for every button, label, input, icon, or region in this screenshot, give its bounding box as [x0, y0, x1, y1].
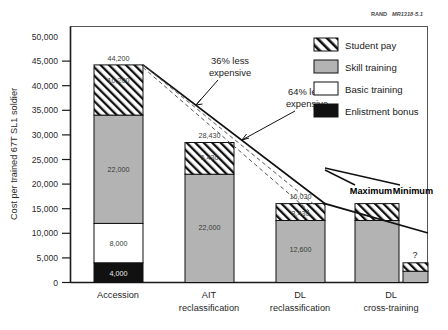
y-axis-ticks [62, 61, 71, 282]
bar-group-accession[interactable]: 44,200 10,200 22,000 8,000 4,000 [94, 54, 143, 283]
legend-swatch-skill-training [314, 60, 338, 73]
bar-segment-skill-training[interactable] [403, 271, 428, 282]
bar-segment-student-pay[interactable] [403, 263, 428, 271]
bar-segment-skill-training[interactable] [355, 221, 399, 283]
credit-line: RAND MR1318-5.1 [371, 11, 423, 17]
annotation-maximum-label: Maximum [350, 186, 392, 196]
bar-value-student-pay: 10,200 [108, 76, 130, 85]
bar-group-dl-reclassification[interactable]: 16,030 3,430 12,600 [276, 192, 325, 283]
x-label-dl-cross-line2: cross-training [363, 303, 418, 313]
legend-swatch-enlistment-bonus [314, 104, 338, 117]
y-tick-label-6: 30,000 [32, 130, 59, 140]
x-label-dl-cross-line1: DL [385, 290, 397, 300]
annotation-minimum-leader [325, 168, 400, 185]
bar-segment-student-pay[interactable] [94, 65, 143, 115]
bar-value-skill-training: 12,600 [290, 245, 312, 254]
legend-label-skill-training: Skill training [345, 62, 397, 73]
y-axis-title: Cost per trained 67T SL1 soldier [9, 88, 19, 220]
y-tick-label-4: 20,000 [32, 179, 59, 189]
y-tick-label-7: 35,000 [32, 105, 59, 115]
x-axis-labels: Accession AIT reclassification DL reclas… [97, 290, 419, 313]
x-label-ait-line1: AIT [202, 290, 217, 300]
annotation-36-line1: 36% less [211, 55, 249, 66]
bar-value-student-pay: 3,430 [292, 209, 310, 218]
y-tick-label-8: 40,000 [32, 81, 59, 91]
legend-swatch-basic-training [314, 82, 338, 95]
legend-label-enlistment-bonus: Enlistment bonus [345, 106, 419, 117]
bar-total-label-accession: 44,200 [108, 54, 130, 63]
legend-swatch-student-pay [314, 38, 338, 51]
legend-label-basic-training: Basic training [345, 84, 403, 95]
annotation-maximum: Maximum [325, 170, 392, 196]
chart-svg: RAND MR1318-5.1 0 5,000 10,000 15,000 20… [0, 0, 448, 330]
x-label-ait-line2: reclassification [179, 303, 239, 313]
x-label-dl-reclass-line2: reclassification [270, 303, 330, 313]
bar-total-label-minimum: ? [412, 250, 417, 260]
y-tick-label-1: 5,000 [36, 253, 58, 263]
annotation-64-leader [242, 111, 295, 140]
annotation-minimum-label: Minimum [393, 186, 433, 196]
bar-value-basic-training: 8,000 [110, 239, 128, 248]
x-label-dl-reclass-line1: DL [294, 290, 306, 300]
chart-figure: RAND MR1318-5.1 0 5,000 10,000 15,000 20… [0, 0, 448, 330]
y-tick-label-0: 0 [53, 278, 58, 288]
bar-group-dl-cross-training-maximum[interactable] [355, 204, 399, 283]
credit-doc: MR1318-5.1 [392, 11, 423, 17]
y-tick-label-9: 45,000 [32, 56, 59, 66]
y-tick-label-5: 25,000 [32, 155, 59, 165]
bar-group-ait-reclassification[interactable]: 28,430 6,430 22,000 [185, 131, 234, 283]
annotation-maximum-leader [325, 170, 355, 185]
y-tick-label-2: 10,000 [32, 228, 59, 238]
legend: Student pay Skill training Basic trainin… [314, 38, 419, 117]
y-axis-labels: 0 5,000 10,000 15,000 20,000 25,000 30,0… [32, 32, 59, 288]
bar-value-student-pay: 6,430 [201, 153, 219, 162]
y-tick-label-10: 50,000 [32, 32, 59, 42]
bar-value-skill-training: 22,000 [199, 223, 221, 232]
annotation-36-line2: expensive [209, 67, 251, 78]
legend-label-student-pay: Student pay [345, 40, 396, 51]
bar-value-skill-training: 22,000 [108, 165, 130, 174]
bar-group-dl-cross-training-minimum[interactable]: ? [403, 250, 428, 283]
annotation-36-pct: 36% less expensive [196, 55, 251, 105]
y-tick-label-3: 15,000 [32, 204, 59, 214]
bar-value-enlistment-bonus: 4,000 [110, 269, 128, 278]
bar-total-label-ait: 28,430 [199, 131, 221, 140]
credit-org: RAND [371, 11, 387, 17]
x-label-accession-line1: Accession [97, 290, 139, 300]
